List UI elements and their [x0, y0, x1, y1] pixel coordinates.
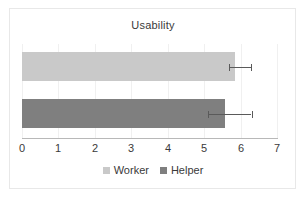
chart-title: Usability [0, 19, 306, 31]
gridline [241, 44, 242, 138]
legend-label-helper: Helper [171, 164, 203, 176]
x-tick-0: 0 [12, 142, 32, 154]
x-tick-5: 5 [194, 142, 214, 154]
errorbar-line-worker [229, 67, 251, 68]
chart-legend: Worker Helper [0, 164, 306, 176]
errorbar-cap-high-worker [251, 64, 252, 71]
legend-label-worker: Worker [114, 164, 149, 176]
errorbar-cap-high-helper [252, 111, 253, 118]
chart-figure: Usability 0 1 2 3 4 5 6 7 Worker Helper [0, 0, 306, 199]
x-axis-line [22, 138, 278, 139]
legend-entry-helper[interactable]: Helper [160, 164, 203, 176]
x-tick-2: 2 [85, 142, 105, 154]
errorbar-cap-low-helper [208, 111, 209, 118]
legend-swatch-worker [103, 167, 110, 174]
x-tick-7: 7 [267, 142, 287, 154]
x-tick-4: 4 [158, 142, 178, 154]
bar-worker[interactable] [22, 52, 235, 81]
x-tick-3: 3 [121, 142, 141, 154]
errorbar-cap-low-worker [229, 64, 230, 71]
x-tick-6: 6 [231, 142, 251, 154]
x-tick-1: 1 [48, 142, 68, 154]
legend-entry-worker[interactable]: Worker [103, 164, 149, 176]
bar-helper[interactable] [22, 99, 225, 128]
plot-area [22, 44, 277, 138]
legend-swatch-helper [160, 167, 167, 174]
errorbar-line-helper [208, 114, 252, 115]
gridline [277, 44, 278, 138]
